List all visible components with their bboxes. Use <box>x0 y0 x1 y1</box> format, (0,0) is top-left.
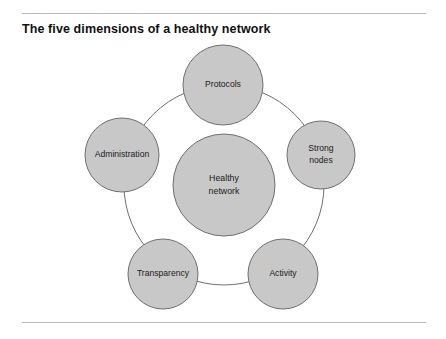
node-healthy-network-label-line1: Healthy <box>209 173 239 183</box>
node-administration[interactable]: Administration <box>85 118 159 192</box>
node-healthy-network-label-line2: network <box>209 186 240 196</box>
five-dimensions-diagram: Transparency Activity Administration Str… <box>0 40 446 315</box>
page-title: The five dimensions of a healthy network <box>22 22 271 36</box>
top-divider-rule <box>22 13 426 14</box>
node-strong-nodes-label-line1: Strong <box>308 143 334 153</box>
node-activity[interactable]: Activity <box>248 239 318 309</box>
node-transparency-label: Transparency <box>137 268 190 278</box>
node-activity-label: Activity <box>269 268 297 278</box>
bottom-divider-rule <box>22 322 426 323</box>
node-transparency[interactable]: Transparency <box>128 239 198 309</box>
node-strong-nodes-label-line2: nodes <box>309 155 332 165</box>
node-administration-label: Administration <box>95 149 150 159</box>
node-protocols[interactable]: Protocols <box>183 45 263 125</box>
node-strong-nodes[interactable]: Strong nodes <box>287 121 355 189</box>
figure-root: The five dimensions of a healthy network… <box>0 0 446 339</box>
node-protocols-label: Protocols <box>205 79 241 89</box>
node-healthy-network[interactable]: Healthy network <box>173 134 275 236</box>
node-healthy-network-circle[interactable] <box>173 134 275 236</box>
